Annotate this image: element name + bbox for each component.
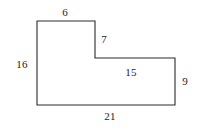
dimension-label-bottom: 21 bbox=[104, 111, 115, 122]
geometry-figure: 6 7 16 15 9 21 bbox=[0, 0, 199, 130]
dimension-label-top: 6 bbox=[62, 7, 68, 18]
dimension-label-right: 9 bbox=[182, 76, 188, 87]
dimension-label-left: 16 bbox=[16, 59, 27, 70]
dimension-label-ledge: 15 bbox=[125, 67, 136, 78]
dimension-label-step-vertical: 7 bbox=[101, 34, 107, 45]
polygon-svg bbox=[0, 0, 199, 130]
